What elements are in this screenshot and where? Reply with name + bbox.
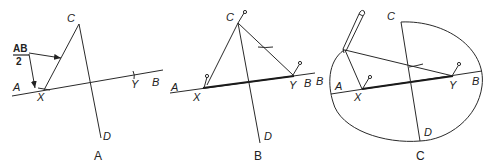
- compass-pin-x-head: [368, 75, 371, 78]
- label-x: X: [36, 91, 45, 103]
- pencil-icon: [343, 10, 365, 53]
- label-a: A: [334, 80, 342, 92]
- ellipse-arc: [330, 22, 483, 141]
- label-b-left: B: [316, 75, 323, 87]
- compass-pin-c: [238, 13, 244, 23]
- label-d: D: [264, 130, 272, 142]
- label-a: A: [170, 81, 178, 93]
- fraction-numerator: AB: [13, 43, 27, 54]
- caption-b: B: [254, 149, 262, 163]
- fraction-denominator: 2: [16, 56, 22, 67]
- arc-tick: [258, 47, 273, 48]
- segment-xy: [362, 76, 453, 89]
- panel-c: C B A X Y B D C: [316, 10, 482, 163]
- line-pencil-x: [345, 50, 362, 89]
- label-c: C: [67, 12, 75, 24]
- line-xc: [44, 24, 79, 90]
- caption-a: A: [94, 149, 102, 163]
- compass-pin-x: [363, 78, 369, 88]
- label-b: B: [472, 75, 479, 87]
- label-x: X: [192, 91, 201, 103]
- label-d: D: [103, 130, 111, 142]
- label-y: Y: [449, 79, 457, 91]
- arrow-to-xc: [29, 53, 61, 58]
- label-b: B: [152, 76, 159, 88]
- line-cx: [207, 23, 238, 85]
- label-y: Y: [131, 78, 139, 90]
- compass-pin-x-head: [205, 74, 208, 77]
- label-y: Y: [289, 79, 297, 91]
- compass-pin-y-head: [298, 61, 301, 64]
- panel-b: C A X Y B D B: [170, 10, 315, 163]
- compass-pin-y-head: [457, 62, 460, 65]
- label-c-top: C: [387, 10, 395, 22]
- line-ab: [12, 70, 163, 96]
- caption-c: C: [416, 149, 425, 163]
- compass-pin-c-head: [243, 10, 246, 13]
- arrow-to-x: [29, 54, 35, 88]
- label-c: C: [226, 11, 234, 23]
- label-a: A: [12, 81, 20, 93]
- geometry-figure: AB 2 C A X Y B D A C A X Y B D B: [0, 0, 491, 166]
- line-pencil-y: [345, 50, 453, 76]
- panel-a: AB 2 C A X Y B D A: [12, 12, 163, 163]
- label-x: X: [353, 91, 362, 103]
- compass-pin-y: [293, 65, 299, 75]
- label-d: D: [424, 126, 432, 138]
- label-b: B: [304, 77, 311, 89]
- compass-pin-x: [204, 77, 207, 88]
